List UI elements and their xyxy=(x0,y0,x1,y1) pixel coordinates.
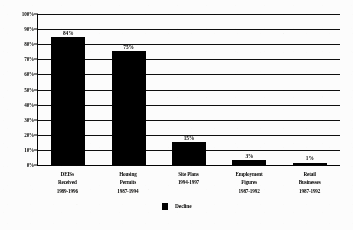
ytick-label-10: 10% xyxy=(24,147,34,153)
bar-slot-deiss-received: 84% xyxy=(38,14,98,165)
bar-chart-screenshot: 100% 90% 80% 70% 60% 50% 40% 30% 20% 10%… xyxy=(0,0,353,230)
xlabel-retail-businesses-line1: Retail xyxy=(279,170,340,178)
xlabel-deiss-received: DEISs Received 1989-1996 xyxy=(37,170,98,195)
xlabel-deiss-received-line1: DEISs xyxy=(37,170,98,178)
xlabel-housing-permits-line2: Permits xyxy=(98,178,159,186)
ytick-label-100: 100% xyxy=(22,11,34,17)
bar-housing-permits xyxy=(112,51,146,165)
xlabel-site-plans-line2: 1994-1997 xyxy=(158,178,219,186)
chart-legend: Decline xyxy=(0,203,353,210)
xlabel-employment-figures-line3: 1987-1992 xyxy=(219,187,280,195)
bar-value-housing-permits: 75% xyxy=(123,44,133,50)
ytick-label-80: 80% xyxy=(24,41,34,47)
bar-deiss-received xyxy=(51,37,85,165)
bar-employment-figures xyxy=(232,160,266,165)
bar-site-plans xyxy=(172,142,206,165)
bar-slot-housing-permits: 75% xyxy=(98,14,158,165)
plot-area: 100% 90% 80% 70% 60% 50% 40% 30% 20% 10%… xyxy=(37,14,340,166)
ytick-label-0: 0% xyxy=(27,162,34,168)
xlabel-employment-figures-line2: Figures xyxy=(219,178,280,186)
bar-value-retail-businesses: 1% xyxy=(306,155,314,161)
xlabel-housing-permits-line3: 1987-1994 xyxy=(98,187,159,195)
xlabel-employment-figures: Employment Figures 1987-1992 xyxy=(219,170,280,195)
ytick-label-20: 20% xyxy=(24,132,34,138)
x-axis-labels: DEISs Received 1989-1996 Housing Permits… xyxy=(37,170,340,204)
ytick-label-50: 50% xyxy=(24,87,34,93)
bar-value-site-plans: 15% xyxy=(184,135,194,141)
ytick-label-40: 40% xyxy=(24,102,34,108)
ytick-label-60: 60% xyxy=(24,71,34,77)
legend-label-decline: Decline xyxy=(175,203,191,209)
bar-slot-employment-figures: 3% xyxy=(219,14,279,165)
xlabel-deiss-received-line3: 1989-1996 xyxy=(37,187,98,195)
xlabel-employment-figures-line1: Employment xyxy=(219,170,280,178)
ytick-label-90: 90% xyxy=(24,26,34,32)
legend-swatch-decline xyxy=(162,203,169,210)
ytick-label-70: 70% xyxy=(24,56,34,62)
xlabel-housing-permits-line1: Housing xyxy=(98,170,159,178)
bar-series-decline: 84% 75% 15% 3% 1% xyxy=(38,14,340,165)
xlabel-retail-businesses-line3: 1987-1992 xyxy=(279,187,340,195)
bar-value-employment-figures: 3% xyxy=(245,153,253,159)
bar-retail-businesses xyxy=(293,163,327,165)
bar-slot-retail-businesses: 1% xyxy=(280,14,340,165)
xlabel-deiss-received-line2: Received xyxy=(37,178,98,186)
xlabel-housing-permits: Housing Permits 1987-1994 xyxy=(98,170,159,195)
bar-value-deiss-received: 84% xyxy=(63,30,73,36)
bar-slot-site-plans: 15% xyxy=(159,14,219,165)
xlabel-site-plans-line1: Site Plans xyxy=(158,170,219,178)
xlabel-site-plans: Site Plans 1994-1997 xyxy=(158,170,219,187)
xlabel-retail-businesses: Retail Businesses 1987-1992 xyxy=(279,170,340,195)
ytick-label-30: 30% xyxy=(24,117,34,123)
xlabel-retail-businesses-line2: Businesses xyxy=(279,178,340,186)
